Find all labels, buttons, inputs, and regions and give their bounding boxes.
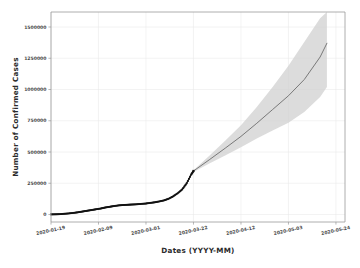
y-axis-title: Number of Confirmed Cases (11, 57, 20, 177)
y-tick-label: 0 (43, 212, 46, 217)
y-tick-label: 1000000 (24, 87, 46, 92)
forecast-line-chart: 0250000500000750000100000012500001500000… (0, 0, 360, 268)
y-tick-label: 750000 (27, 118, 46, 123)
plot-background (51, 12, 345, 222)
y-tick-label: 500000 (27, 150, 46, 155)
y-tick-label: 1500000 (24, 25, 46, 30)
x-axis-title: Dates (YYYY-MM) (161, 246, 234, 255)
y-tick-label: 1250000 (24, 56, 46, 61)
y-tick-label: 250000 (27, 181, 46, 186)
chart-figure: 0250000500000750000100000012500001500000… (0, 0, 360, 268)
